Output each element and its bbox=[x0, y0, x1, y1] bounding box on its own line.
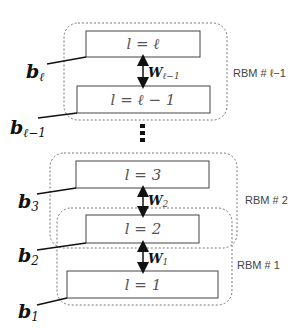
weight-1-label: W1 bbox=[148, 251, 168, 267]
weight-top-label: Wℓ−1 bbox=[148, 65, 180, 81]
layer-2-label: l = 2 bbox=[125, 220, 161, 238]
bias-3-label: b3 bbox=[18, 190, 39, 214]
weight-2-label: W2 bbox=[148, 193, 169, 209]
rbm-1-label: RBM # 1 bbox=[237, 259, 280, 271]
layer-top: l = ℓ bbox=[86, 31, 200, 57]
layer-3: l = 3 bbox=[76, 161, 209, 188]
layer-top-minus-1: l = ℓ − 1 bbox=[77, 86, 210, 113]
layer-3-label: l = 3 bbox=[125, 166, 161, 184]
bias-2-line bbox=[37, 243, 86, 250]
rbm-2-label: RBM # 2 bbox=[245, 194, 288, 206]
rbm-top-label: RBM # ℓ−1 bbox=[233, 67, 286, 79]
bias-top-line bbox=[47, 57, 86, 64]
bias-2-label: b2 bbox=[18, 244, 39, 268]
bias-3-line bbox=[37, 188, 76, 194]
bias-top-minus-1-line bbox=[38, 113, 77, 118]
bias-1-label: b1 bbox=[18, 300, 39, 324]
layer-top-label: l = ℓ bbox=[126, 35, 159, 53]
bias-top-label: bℓ bbox=[26, 60, 44, 84]
layer-1: l = 1 bbox=[67, 271, 218, 298]
layer-2: l = 2 bbox=[86, 215, 199, 243]
layer-top-minus-1-label: l = ℓ − 1 bbox=[111, 91, 176, 109]
layer-1-label: l = 1 bbox=[125, 276, 161, 294]
dbn-diagram: l = ℓ l = ℓ − 1 l = 3 l = 2 l = 1 Wℓ−1 W… bbox=[0, 0, 305, 333]
vertical-ellipsis bbox=[140, 124, 145, 142]
bias-top-minus-1-label: bℓ−1 bbox=[10, 116, 46, 140]
